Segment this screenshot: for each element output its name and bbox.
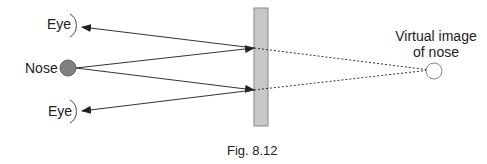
- reflected-ray-bottom: [82, 90, 254, 111]
- virtual-image-icon: [426, 63, 442, 79]
- incident-ray-bottom: [76, 68, 254, 90]
- label-virtual-image: Virtual image of nose: [390, 28, 482, 60]
- label-eye-top: Eye: [47, 16, 71, 32]
- label-nose: Nose: [25, 60, 58, 76]
- plane-mirror: [254, 8, 268, 126]
- figure-caption: Fig. 8.12: [227, 143, 278, 158]
- virtual-ray-bottom: [254, 70, 430, 90]
- incident-ray-top: [76, 48, 254, 68]
- label-virtual-line2: of nose: [390, 44, 482, 60]
- nose-icon: [60, 60, 76, 76]
- ray-diagram: [0, 0, 487, 164]
- reflected-ray-top: [82, 27, 254, 48]
- label-virtual-line1: Virtual image: [390, 28, 482, 44]
- label-eye-bottom: Eye: [48, 103, 72, 119]
